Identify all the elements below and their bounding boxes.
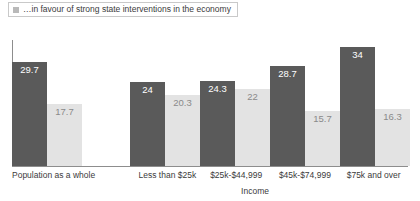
bar-chart: …in favour of strong state interventions… (0, 0, 420, 201)
bar[interactable]: 24.3 (200, 81, 235, 166)
x-axis-title-text: Income (241, 186, 269, 196)
x-axis-line (12, 166, 408, 167)
bar-value-label: 15.7 (305, 114, 340, 124)
bar[interactable]: 29.7 (12, 62, 47, 166)
bar[interactable]: 15.7 (305, 111, 340, 166)
bar[interactable]: 24 (130, 82, 165, 166)
plot-area: 29.717.72420.324.32228.715.73416.3 (12, 40, 408, 166)
bar-value-label: 34 (340, 50, 375, 60)
x-axis-category-label: Less than $25k (133, 170, 202, 184)
bar-value-label: 22 (235, 92, 270, 102)
bar-value-label: 29.7 (12, 65, 47, 75)
bar-group: 3416.3 (340, 40, 410, 166)
x-axis-category-label: $45k-$74,999 (271, 170, 340, 184)
x-axis-category-label: $25k-$44,999 (202, 170, 271, 184)
bar-group: 2420.3 (130, 40, 200, 166)
bar-groups: 29.717.72420.324.32228.715.73416.3 (12, 40, 408, 166)
legend-label: …in favour of strong state interventions… (23, 5, 231, 14)
bar-group: 29.717.7 (12, 40, 82, 166)
bar[interactable]: 34 (340, 47, 375, 166)
bar-group: 24.322 (200, 40, 270, 166)
x-axis-category-labels: Population as a wholeLess than $25k$25k-… (12, 170, 408, 184)
bar-value-label: 17.7 (47, 107, 82, 117)
bar-value-label: 24.3 (200, 84, 235, 94)
x-axis-title: Income (0, 186, 420, 196)
bar[interactable]: 20.3 (165, 95, 200, 166)
x-axis-category-label: Population as a whole (12, 170, 85, 184)
bar-group: 28.715.7 (270, 40, 340, 166)
bar[interactable]: 28.7 (270, 66, 305, 166)
legend-square-marker-icon (13, 7, 19, 13)
bar-value-label: 16.3 (375, 112, 410, 122)
bar-value-label: 20.3 (165, 98, 200, 108)
bar[interactable]: 22 (235, 89, 270, 166)
bar[interactable]: 17.7 (47, 104, 82, 166)
chart-legend[interactable]: …in favour of strong state interventions… (8, 2, 238, 17)
bar[interactable]: 16.3 (375, 109, 410, 166)
bar-value-label: 28.7 (270, 69, 305, 79)
x-axis-category-label: $75k and over (339, 170, 408, 184)
bar-value-label: 24 (130, 85, 165, 95)
